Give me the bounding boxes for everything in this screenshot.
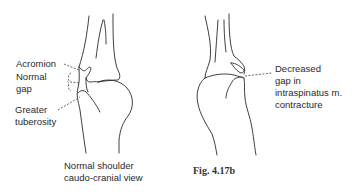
figure-4-17b: Acromion Normal gap Greater tuberosity N… [0,0,362,194]
scapular-spine-inner-left [104,20,106,44]
greater-tuberosity-left [78,91,100,112]
caption-normal-shoulder-line1: Normal shoulder [64,160,134,171]
scapula-outline-right [205,16,211,78]
scapula-outline-left [79,16,89,67]
greater-tuberosity-right [226,77,242,98]
humerus-lateral-right [244,78,256,155]
label-decreased-gap-line2: gap in [275,75,301,86]
label-decreased-gap-line1: Decreased [275,63,321,74]
label-normal-gap-line2: gap [16,83,32,94]
scapula-neck-left [98,14,120,82]
caption-normal-shoulder-line2: caudo-cranial view [64,172,143,183]
figure-number: Fig. 4.17b [193,165,235,176]
label-decreased-gap-line4: contracture [275,99,323,110]
contracture-shoulder-drawing [197,14,272,155]
normal-shoulder-drawing [58,14,132,153]
label-greater-tuberosity-line2: tuberosity [15,116,56,127]
acromion-leader [64,64,79,70]
humeral-head-left [98,80,132,153]
label-decreased-gap-line3: intraspinatus m. [275,87,342,98]
greater-tuberosity-leader [58,97,80,110]
label-acromion: Acromion [16,58,56,69]
acromion-left [79,67,98,82]
scapular-spine-left [96,20,103,58]
label-greater-tuberosity-line1: Greater [15,104,47,115]
humeral-head-right [197,78,217,155]
scapular-spine-right [215,20,218,62]
decreased-gap-leader [245,73,272,76]
acromion-right [231,63,244,73]
humerus-medial-left [77,67,86,153]
label-normal-gap-line1: Normal [16,71,47,82]
scapular-spine-inner-right [224,20,226,52]
